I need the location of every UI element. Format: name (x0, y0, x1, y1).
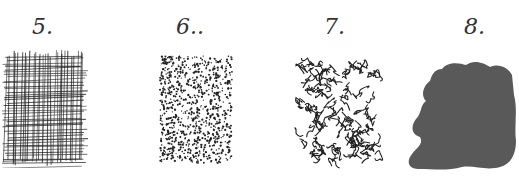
crosshatch-texture (0, 48, 90, 168)
sample-number: 8. (464, 14, 485, 39)
scribble-texture (294, 56, 384, 171)
sample-number: 7. (324, 14, 345, 39)
sample-scribble: 7. (260, 0, 390, 189)
sample-number: 6.. (176, 14, 204, 39)
sample-crosshatch: 5. (0, 0, 130, 189)
sample-number: 5. (32, 14, 53, 39)
stipple-texture (156, 52, 236, 167)
sample-solid: 8. (390, 0, 519, 189)
solid-tone-blob (390, 55, 519, 175)
sample-stipple: 6.. (130, 0, 260, 189)
